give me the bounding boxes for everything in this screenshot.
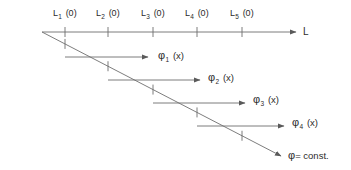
- phi-arrows-group: [65, 57, 284, 126]
- l-axis-group: [42, 27, 296, 37]
- l-axis-tick-label-1: L1 (0): [53, 9, 77, 20]
- phi-2-label: φ2 (x): [208, 72, 234, 85]
- phi-3-label: φ3 (x): [253, 94, 279, 107]
- l-axis-tick-label-5: L5 (0): [230, 9, 254, 20]
- phi-4-label: φ4 (x): [292, 117, 318, 130]
- l-axis-tick-label-2: L2 (0): [96, 9, 120, 20]
- l-axis-tick-label-4: L4 (0): [185, 9, 209, 20]
- l-axis-name-label: L: [303, 27, 309, 37]
- phi-1-label: φ1 (x): [158, 50, 184, 63]
- diagram-vector-layer: [0, 0, 351, 170]
- phi-const-label: φ= const.: [288, 150, 329, 161]
- l-axis-tick-label-3: L3 (0): [141, 9, 165, 20]
- diagram-canvas: L1 (0)L2 (0)L3 (0)L4 (0)L5 (0) L φ1 (x)φ…: [0, 0, 351, 170]
